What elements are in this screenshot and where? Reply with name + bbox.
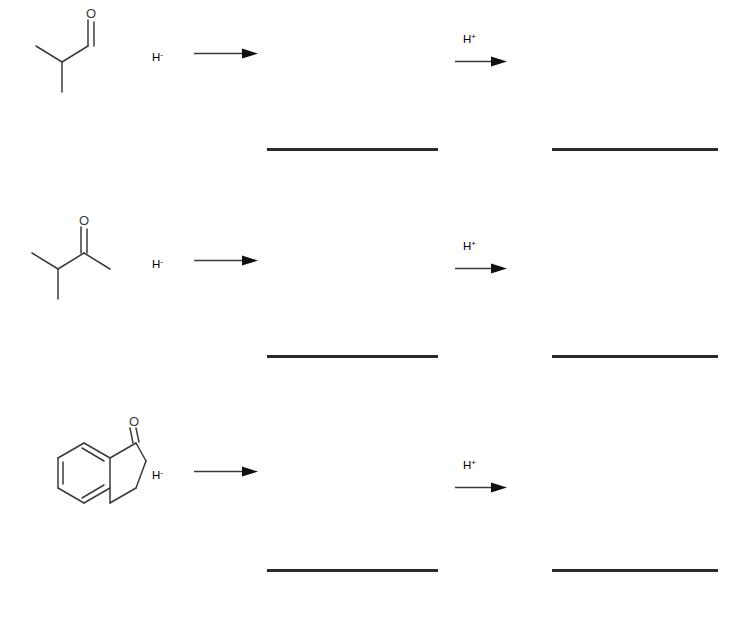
intermediate-answer-blank[interactable]	[267, 355, 438, 358]
oxygen-atom-label: O	[129, 414, 139, 429]
substrate-structure-methyl-isopropyl-ketone: O	[14, 207, 144, 317]
reaction-row: O H- H+	[0, 0, 745, 210]
reaction-row: O H- H+	[0, 207, 745, 417]
proton-charge-superscript: +	[471, 32, 476, 41]
hydride-charge-superscript: -	[160, 50, 163, 59]
reaction-arrow-right-icon	[194, 48, 258, 59]
oxygen-atom-label: O	[79, 213, 89, 228]
hydride-reagent-label: H-	[152, 50, 163, 63]
product-answer-blank[interactable]	[552, 569, 718, 572]
reaction-row: O H- H+	[0, 414, 745, 623]
product-answer-blank[interactable]	[552, 355, 718, 358]
reaction-arrow-right-icon	[194, 466, 258, 477]
proton-reagent-label: H+	[463, 458, 476, 471]
reaction-arrow-right-icon	[455, 263, 507, 274]
hydride-reagent-group: H-	[152, 462, 262, 496]
hydride-reagent-label: H-	[152, 468, 163, 481]
proton-reagent-group: H+	[455, 458, 525, 504]
proton-charge-superscript: +	[471, 239, 476, 248]
reaction-worksheet: O H- H+	[0, 0, 745, 623]
hydride-charge-superscript: -	[160, 468, 163, 477]
product-answer-blank[interactable]	[552, 148, 718, 151]
proton-reagent-label: H+	[463, 239, 476, 252]
intermediate-answer-blank[interactable]	[267, 148, 438, 151]
proton-reagent-label: H+	[463, 32, 476, 45]
intermediate-answer-blank[interactable]	[267, 569, 438, 572]
hydride-reagent-label: H-	[152, 257, 163, 270]
proton-charge-superscript: +	[471, 458, 476, 467]
hydride-charge-superscript: -	[160, 257, 163, 266]
hydride-reagent-group: H-	[152, 44, 262, 78]
proton-reagent-group: H+	[455, 239, 525, 285]
reaction-arrow-right-icon	[455, 482, 507, 493]
reaction-arrow-right-icon	[194, 255, 258, 266]
substrate-structure-1-tetralone: O	[18, 414, 148, 524]
substrate-structure-isobutyraldehyde: O	[14, 0, 144, 110]
reaction-arrow-right-icon	[455, 56, 507, 67]
oxygen-atom-label: O	[86, 6, 96, 21]
hydride-reagent-group: H-	[152, 251, 262, 285]
proton-reagent-group: H+	[455, 32, 525, 78]
